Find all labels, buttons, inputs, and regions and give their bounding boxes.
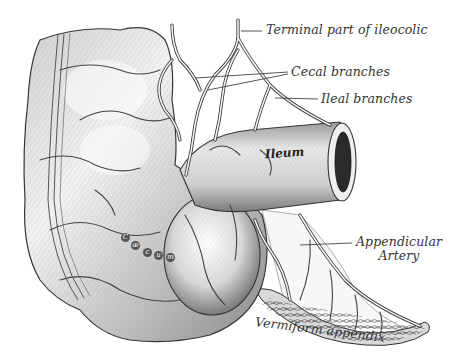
label-cecum-letter-1: C [121, 233, 130, 242]
ileum [180, 122, 356, 212]
label-ileal-branches: Ileal branches [321, 93, 413, 106]
label-cecum-letter-5: m [166, 253, 175, 262]
cecum-illustration [0, 0, 455, 364]
label-cecum-letter-4: u [154, 251, 163, 260]
label-cecum-letter-2: æ [131, 241, 140, 250]
label-cecal-branches: Cecal branches [291, 66, 390, 79]
label-terminal-ileocolic: Terminal part of ileocolic [266, 24, 428, 37]
label-appendicular: Appendicular [354, 236, 444, 249]
anatomy-figure: Terminal part of ileocolic Cecal branche… [0, 0, 455, 364]
label-cecum-letter-3: c [143, 248, 152, 257]
leader-ileal [275, 98, 318, 99]
label-artery: Artery [354, 250, 444, 263]
cecum-bulb [164, 195, 260, 315]
ileum-lumen [335, 132, 351, 192]
label-ileum: Ileum [265, 146, 305, 161]
